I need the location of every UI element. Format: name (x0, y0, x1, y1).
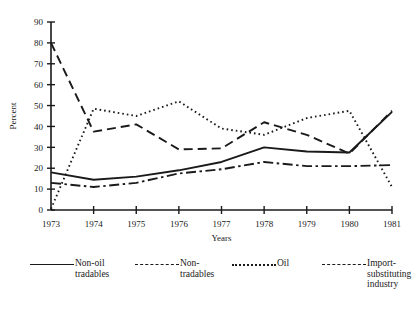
series-line-non-oil-tradables (51, 112, 392, 180)
y-tick-label: 90 (34, 17, 44, 27)
y-tick-label: 0 (39, 205, 44, 215)
chart-legend: Non-oil tradables Non- tradables Oil Imp… (0, 252, 418, 315)
y-tick-label: 30 (34, 143, 44, 153)
legend-label: Non-oil tradables (74, 258, 109, 279)
x-tick-label: 1980 (340, 219, 359, 229)
x-tick-label: 1974 (85, 219, 104, 229)
x-tick-label: 1973 (42, 219, 61, 229)
plot-area: 0102030405060708090197319741975197619771… (0, 0, 418, 248)
legend-label: Oil (276, 258, 289, 269)
x-tick-label: 1975 (127, 219, 146, 229)
x-tick-label: 1977 (213, 219, 232, 229)
x-tick-label: 1981 (383, 219, 401, 229)
x-tick-label: 1979 (298, 219, 317, 229)
legend-swatch-dashdot-icon (322, 259, 366, 270)
y-tick-label: 70 (34, 59, 44, 69)
y-tick-label: 40 (34, 122, 44, 132)
y-tick-label: 60 (34, 80, 44, 90)
x-axis-label: Years (211, 233, 232, 243)
legend-swatch-solid-icon (30, 259, 74, 270)
line-chart: 0102030405060708090197319741975197619771… (0, 0, 418, 315)
legend-item-oil: Oil (232, 258, 289, 270)
x-tick-label: 1976 (170, 219, 189, 229)
legend-swatch-dotted-icon (232, 259, 276, 270)
legend-item-import-substituting-industry: Import- substituting industry (322, 258, 411, 290)
chart-canvas: 0102030405060708090197319741975197619771… (0, 0, 418, 248)
x-tick-label: 1978 (255, 219, 274, 229)
y-tick-label: 10 (34, 184, 44, 194)
series-line-import-substituting-industry (51, 162, 392, 187)
legend-item-non-oil-tradables: Non-oil tradables (30, 258, 109, 279)
series-line-non-tradables (51, 43, 392, 154)
y-tick-label: 50 (34, 101, 44, 111)
legend-label: Import- substituting industry (366, 258, 411, 290)
y-tick-label: 20 (34, 163, 44, 173)
y-axis-label: Percent (8, 102, 18, 129)
legend-swatch-dashed-icon (135, 259, 179, 270)
y-tick-label: 80 (34, 38, 44, 48)
legend-item-non-tradables: Non- tradables (135, 258, 214, 279)
series-line-oil (51, 101, 392, 209)
legend-label: Non- tradables (179, 258, 214, 279)
